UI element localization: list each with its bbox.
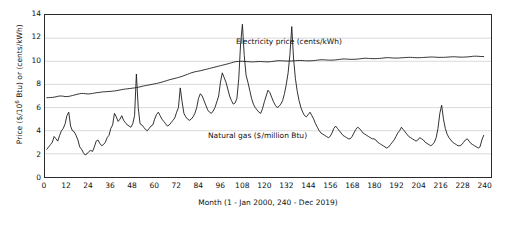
x-axis-title: Month (1 - Jan 2000, 240 - Dec 2019) [44,198,492,207]
y-tick-label: 10 [31,57,41,65]
y-tick-label: 2 [36,151,41,159]
x-tick-label: 72 [171,181,181,190]
x-tick-label: 180 [367,181,381,190]
x-tick-label: 96 [215,181,225,190]
x-tick-label: 60 [149,181,159,190]
x-tick-label: 24 [83,181,93,190]
chart-container: 02468101214 Price ($/106 Btu) or (cents/… [0,0,524,229]
x-tick-label: 204 [411,181,425,190]
x-tick-label: 12 [61,181,71,190]
y-axis-title-suffix: Btu) or (cents/kWh) [15,24,24,100]
x-tick-label: 0 [42,181,47,190]
x-tick-label: 84 [193,181,203,190]
annotation-electricity-price: Electricity price (cents/kWh) [236,37,342,46]
y-tick-label: 14 [31,10,41,18]
annotation-natural-gas: Natural gas ($/million Btu) [208,131,307,140]
x-axis-tick-labels: 0122436486072849610812013214415616818019… [44,181,492,193]
x-tick-label: 156 [323,181,337,190]
y-tick-label: 4 [36,127,41,135]
x-tick-label: 120 [257,181,271,190]
x-tick-label: 192 [389,181,403,190]
x-tick-label: 216 [433,181,447,190]
y-axis-title: Price ($/106 Btu) or (cents/kWh) [14,4,25,164]
y-tick-label: 0 [36,174,41,182]
series-line-0 [47,56,484,98]
y-axis-title-prefix: Price ($/10 [15,104,24,144]
x-tick-label: 48 [127,181,137,190]
x-tick-label: 108 [235,181,249,190]
y-tick-label: 6 [36,104,41,112]
x-tick-label: 168 [345,181,359,190]
x-tick-label: 36 [105,181,115,190]
x-tick-label: 144 [301,181,315,190]
x-tick-label: 228 [455,181,469,190]
y-tick-label: 8 [36,80,41,88]
y-tick-label: 12 [31,33,41,41]
y-axis-title-exponent: 6 [14,100,20,104]
x-tick-label: 132 [279,181,293,190]
x-tick-label: 240 [477,181,491,190]
